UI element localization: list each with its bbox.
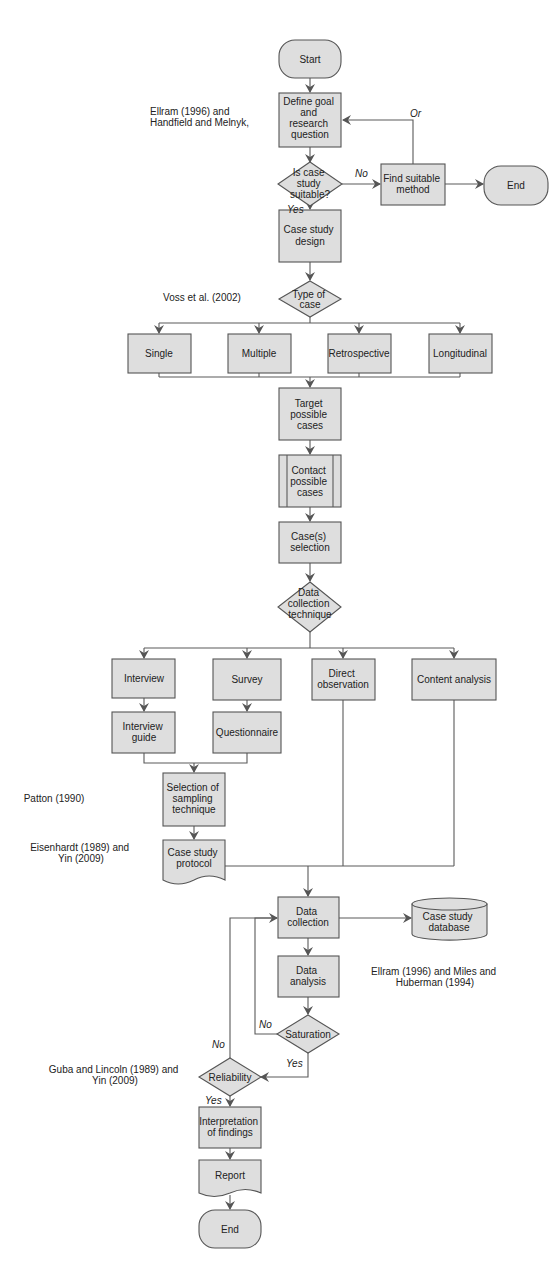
node-label: case [299,299,321,310]
label-no-saturation: No [259,1019,272,1030]
svg-text:Case(s) selection: Case(s) selection [290,531,329,553]
node-database: Case study database [412,898,487,940]
node-sampling: Selection of sampling technique [163,773,225,826]
node-label: Case study [423,911,473,922]
reference-reliability: Guba and Lincoln (1989) and Yin (2009) [49,1064,181,1086]
node-target-cases: Target possible cases [279,388,341,440]
node-label: research [289,118,328,129]
node-report: Report [199,1160,261,1197]
svg-text:Start: Start [299,54,320,65]
node-interview: Interview [112,659,175,698]
svg-text:Interpretation of findin: Interpretation of findings [199,1116,261,1138]
reference-analysis: Ellram (1996) and Miles and Huberman (19… [371,966,499,988]
node-label: question [291,129,329,140]
label-yes-reliability: Yes [205,1095,222,1106]
svg-text:End: End [221,1224,239,1235]
svg-text:Questionnaire: Questionnaire [216,727,279,738]
svg-text:Retrospective: Retrospective [328,348,390,359]
node-label: study [297,178,321,189]
node-multiple: Multiple [228,334,291,373]
reference-type: Voss et al. (2002) [163,292,241,303]
node-case-selection: Case(s) selection [279,522,341,563]
node-label: Survey [231,674,262,685]
node-single: Single [128,334,191,373]
node-label: Case(s) [291,531,326,542]
node-end-top: End [484,166,548,205]
decision-type-of-case: Type of case [279,281,341,317]
node-label: Longitudinal [433,348,487,359]
node-label: and [300,107,317,118]
node-label: Saturation [285,1029,331,1040]
node-label: possible [290,476,327,487]
node-label: Interview [124,673,165,684]
node-label: cases [297,487,323,498]
edge-saturation-no [255,918,278,1034]
node-find-method: Find suitable method [381,164,445,205]
reference-protocol: Eisenhardt (1989) and Yin (2009) [30,842,132,864]
svg-text:Report: Report [215,1170,245,1181]
node-label: End [507,180,525,191]
decision-saturation: Saturation [277,1015,339,1053]
decision-is-case-suitable: Is case study suitable? [278,162,342,206]
node-label: Data [296,906,318,917]
node-survey: Survey [213,659,281,700]
node-label: design [295,236,324,247]
node-protocol: Case study protocol [163,840,225,884]
node-end-bottom: End [199,1210,261,1248]
edge-reliability-no [230,918,277,1058]
edge-guide-questionnaire-merge [144,753,247,763]
svg-text:Longitudinal: Longitudinal [433,348,487,359]
node-label: selection [290,542,329,553]
node-label: Questionnaire [216,727,279,738]
node-label: collection [288,598,330,609]
node-label: Contact [291,465,326,476]
node-direct-observation: Direct observation [312,659,375,700]
node-interpretation: Interpretation of findings [199,1107,261,1148]
node-label: Content analysis [417,674,491,685]
decision-reliability: Reliability [199,1058,261,1096]
node-data-collection: Data collection [278,897,339,938]
node-content-analysis: Content analysis [412,659,496,700]
node-label: Data [296,965,318,976]
svg-text:Reliability: Reliability [209,1072,252,1083]
node-label: possible [290,409,327,420]
node-interview-guide: Interview guide [112,712,175,753]
svg-text:Single: Single [145,348,173,359]
node-contact-cases: Contact possible cases [279,455,341,507]
node-label: sampling [173,793,213,804]
svg-text:Multiple: Multiple [242,348,277,359]
node-retrospective: Retrospective [328,334,391,373]
node-label: Direct [329,668,355,679]
node-label: suitable? [290,189,330,200]
flowchart: Start Define goal and research question … [0,0,560,1273]
node-label: Reliability [209,1072,252,1083]
node-label: Case study [284,224,334,235]
node-label: Interpretation [199,1116,258,1127]
node-label: Is case [293,167,325,178]
node-case-design: Case study design [279,210,341,262]
svg-text:Saturation: Saturation [285,1029,331,1040]
label-yes-saturation: Yes [286,1058,303,1069]
node-label: Target [295,398,323,409]
svg-text:Survey: Survey [231,674,262,685]
node-label: Multiple [242,348,277,359]
node-data-analysis: Data analysis [278,956,339,997]
node-label: End [221,1224,239,1235]
node-label: Start [299,54,320,65]
node-label: Report [215,1170,245,1181]
node-label: Selection of [166,782,218,793]
node-label: method [396,184,429,195]
node-label: observation [317,679,369,690]
node-longitudinal: Longitudinal [429,334,492,373]
node-label: Retrospective [328,348,390,359]
node-label: Find suitable [383,173,440,184]
node-define-goal: Define goal and research question [279,93,341,147]
node-label: Case study [168,847,218,858]
node-label: of findings [207,1127,253,1138]
svg-text:Interview: Interview [124,673,165,684]
node-label: cases [297,420,323,431]
svg-text:Content analysis: Content analysis [417,674,491,685]
node-label: guide [132,732,157,743]
label-or-loop: Or [410,108,422,119]
label-no-suitable: No [355,168,368,179]
